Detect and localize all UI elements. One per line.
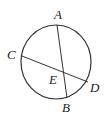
circle-chords-diagram: A B C D E [0, 0, 104, 115]
label-c: C [7, 47, 16, 62]
label-d: D [89, 80, 100, 95]
label-b: B [62, 100, 70, 115]
label-a: A [53, 7, 62, 22]
chord-ab [57, 25, 67, 98]
label-e: E [48, 72, 57, 87]
circle [21, 25, 91, 99]
